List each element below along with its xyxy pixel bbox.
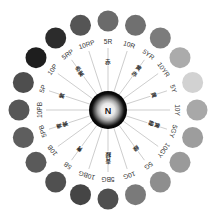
hue-swatch-10g	[125, 184, 146, 205]
hue-swatch-10gy	[170, 152, 191, 173]
hue-name-char: 青	[75, 144, 85, 154]
hue-code-label: 5YR	[141, 48, 156, 61]
hue-swatch-5bg	[98, 189, 119, 210]
hue-code-label: 10R	[122, 39, 136, 49]
hue-swatch-10p	[25, 47, 46, 68]
hue-code-label: 10GY	[156, 142, 172, 160]
hue-code-label: 10YR	[156, 61, 171, 79]
hue-code-label: 10B	[46, 143, 59, 157]
hue-name-char: 緑	[131, 144, 141, 154]
hue-swatch-5pb	[13, 127, 34, 148]
hue-code-label: 5R	[104, 38, 113, 45]
hue-code-label: 5GY	[168, 124, 179, 139]
munsell-hue-circle: 5R10R5YR10YR5Y10Y5GY10GY5G10G5BG10BG5B10…	[0, 0, 215, 220]
hue-swatch-5y	[182, 72, 203, 93]
hue-swatch-5g	[150, 172, 171, 193]
hue-swatch-10b	[25, 152, 46, 173]
hue-swatch-10yr	[170, 47, 191, 68]
hue-code-label: 5RP	[60, 47, 75, 61]
hue-swatch-5rp	[45, 27, 66, 48]
hue-swatch-5p	[13, 72, 34, 93]
hue-swatch-10r	[125, 15, 146, 36]
hue-code-label: 5BG	[101, 176, 114, 183]
hue-code-label: 5Y	[169, 84, 178, 94]
hue-swatch-10pb	[9, 100, 30, 121]
hue-swatch-10bg	[70, 184, 91, 205]
hue-code-label: 5P	[38, 83, 47, 93]
hue-swatch-5b	[45, 172, 66, 193]
hue-code-label: 10Y	[174, 104, 181, 116]
hue-code-label: 5B	[62, 160, 73, 171]
hue-swatch-10rp	[70, 15, 91, 36]
hue-code-label: 5G	[143, 160, 154, 171]
hue-code-label: 10BG	[78, 170, 96, 182]
hue-name-char: 赤	[105, 58, 111, 66]
hue-name-char: 緑	[105, 151, 111, 159]
hue-code-label: 10PB	[36, 101, 43, 118]
hue-swatch-5r	[98, 11, 119, 32]
hue-swatch-10y	[187, 100, 208, 121]
hue-swatch-5gy	[182, 127, 203, 148]
neutral-label: N	[105, 106, 112, 116]
hue-code-label: 5PB	[37, 124, 48, 139]
hue-code-label: 10RP	[78, 38, 96, 50]
hue-code-label: 10G	[122, 170, 136, 181]
hue-code-label: 10P	[46, 62, 59, 76]
neutral-hub: N	[89, 91, 127, 129]
hue-swatch-5yr	[150, 27, 171, 48]
